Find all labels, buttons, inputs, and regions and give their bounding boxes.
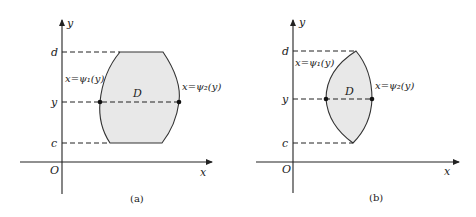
y-axis-label-b: y <box>298 16 306 29</box>
left-curve-label-b: x=ψ₁(y) <box>295 57 334 68</box>
right-curve-label-a: x=ψ₂(y) <box>182 81 221 92</box>
right-curve-label-b: x=ψ₂(y) <box>375 80 414 91</box>
tick-d-b: d <box>282 45 289 58</box>
figure-canvas: y x O d y c D x=ψ₁(y) x=ψ₂(y) (a) y x O … <box>0 0 476 217</box>
tick-d-a: d <box>51 46 58 59</box>
x-axis-label-a: x <box>200 166 207 179</box>
point-right-b <box>370 97 375 102</box>
origin-label-b: O <box>282 163 291 176</box>
y-axis-label-a: y <box>66 17 74 30</box>
tick-c-b: c <box>282 137 288 150</box>
tick-y-a: y <box>50 96 58 109</box>
tick-c-a: c <box>51 137 57 150</box>
caption-b: (b) <box>369 192 383 203</box>
region-label-a: D <box>132 87 142 100</box>
panel-a: y x O d y c D x=ψ₁(y) x=ψ₂(y) (a) <box>20 17 221 204</box>
region-label-b: D <box>344 85 354 98</box>
caption-a: (a) <box>130 193 144 204</box>
point-left-b <box>324 97 329 102</box>
tick-y-b: y <box>281 93 289 106</box>
panel-b: y x O d y c D x=ψ₁(y) x=ψ₂(y) (b) <box>256 16 459 203</box>
origin-label-a: O <box>50 164 59 177</box>
x-axis-label-b: x <box>444 165 451 178</box>
point-left-a <box>98 100 103 105</box>
left-curve-label-a: x=ψ₁(y) <box>65 73 104 84</box>
point-right-a <box>177 100 182 105</box>
